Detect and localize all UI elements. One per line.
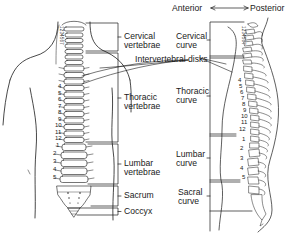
anterior-lumbar-number: 2 <box>53 150 56 156</box>
thoracic-vertebrae-label: Thoracic vertebrae <box>124 93 160 111</box>
anterior-lumbar-number: 5 <box>53 174 56 180</box>
anterior-thoracic-number: 7 <box>58 103 61 109</box>
anterior-thoracic-number: 9 <box>58 116 61 122</box>
anterior-thoracic-number: 10 <box>55 122 62 128</box>
posterior-direction-label: Posterior <box>250 4 284 13</box>
anterior-thoracic-number: 8 <box>58 109 61 115</box>
anterior-thoracic-number: 4 <box>58 83 61 89</box>
lumbar-curve-label: Lumbar curve <box>176 150 205 168</box>
coccyx-label: Coccyx <box>124 207 152 216</box>
anterior-body-outline <box>3 22 131 220</box>
anterior-thoracic-number: 11 <box>55 129 61 135</box>
sacrum-label: Sacrum <box>124 191 154 200</box>
anterior-lumbar-number: 1 <box>56 142 59 148</box>
lumbar-vertebrae-label: Lumbar vertebrae <box>124 159 160 177</box>
anterior-thoracic-number: 5 <box>58 90 61 96</box>
cervical-curve-label: Cervical curve <box>176 32 207 50</box>
double-headed-arrow-icon <box>211 6 248 10</box>
anterior-thoracic-number: 12 <box>55 135 62 141</box>
vertebral-column-diagram: Anterior Posterior Cervical vertebrae Th… <box>0 0 289 233</box>
thoracic-curve-label: Thoracic curve <box>176 87 209 105</box>
cervical-vertebrae-label: Cervical vertebrae <box>124 32 160 50</box>
anterior-lumbar-number: 4 <box>53 166 56 172</box>
sacral-curve-label: Sacral curve <box>178 188 202 206</box>
anterior-cervical-numbers: 1234567 <box>59 26 64 45</box>
intervertebral-disks-label: Intervertebral disks <box>135 55 208 64</box>
lateral-lumbar-number: 5 <box>242 174 245 180</box>
lateral-lumbar-number: 3 <box>240 155 243 161</box>
lateral-thoracic-number: 12 <box>239 126 246 132</box>
anterior-lumbar-number: 3 <box>53 158 56 164</box>
anterior-direction-label: Anterior <box>172 4 202 13</box>
lateral-lumbar-number: 1 <box>242 136 245 142</box>
lateral-lumbar-number: 4 <box>240 165 243 171</box>
lateral-thoracic-number: 11 <box>241 119 247 125</box>
anterior-thoracic-number: 6 <box>58 96 61 102</box>
lateral-cervical-numbers: 1234567 <box>241 26 246 45</box>
lateral-lumbar-number: 2 <box>240 145 243 151</box>
